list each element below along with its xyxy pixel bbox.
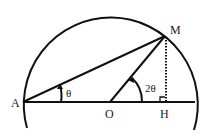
label-M: M (170, 23, 181, 37)
label-angle-theta: θ (66, 87, 71, 99)
geometry-diagram: A O M H θ 2θ (0, 0, 208, 139)
segment-OM (110, 36, 165, 102)
segment-AM (23, 36, 165, 102)
label-O: O (105, 107, 114, 121)
label-A: A (11, 96, 20, 110)
label-angle-2theta: 2θ (145, 82, 156, 94)
label-H: H (160, 107, 169, 121)
